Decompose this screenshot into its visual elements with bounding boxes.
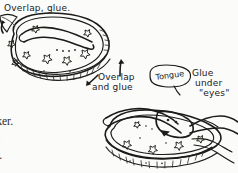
annotation-tongue-label: Tongue bbox=[154, 69, 185, 82]
body-text-block: ch eaker. the ow. bbox=[0, 96, 56, 164]
body-inner-contour bbox=[15, 17, 103, 73]
tongue-bubble-pointer bbox=[174, 86, 180, 95]
coil-tab-strip-bottom bbox=[106, 147, 217, 167]
body-text-line-3: the bbox=[0, 130, 56, 147]
figure-snake-head-bottom bbox=[103, 109, 238, 169]
seam-dots bbox=[56, 49, 76, 52]
neck-ribbon-edge bbox=[103, 118, 108, 126]
illustration-page: Overlap, glue. Overlap and glue Tongue G… bbox=[0, 0, 238, 173]
annotation-middle-line2: and glue bbox=[92, 82, 133, 92]
body-text-line-1: ch bbox=[0, 96, 56, 113]
annotation-glue-line3: "eyes" bbox=[199, 88, 230, 98]
body-text-line-2: eaker. bbox=[0, 113, 56, 130]
inner-wavy-band-tail bbox=[19, 34, 24, 42]
eye-right bbox=[175, 121, 178, 124]
body-text-line-4: ow. bbox=[0, 147, 56, 164]
inner-wavy-band-bottom bbox=[24, 37, 94, 49]
coil-dots bbox=[139, 125, 167, 144]
eye-left bbox=[167, 119, 170, 122]
annotation-glue-line1: Glue bbox=[192, 68, 214, 78]
figure-snake-body-top bbox=[0, 13, 110, 81]
star-decorations-bottom bbox=[122, 122, 204, 155]
neck-ribbon-bottom bbox=[108, 117, 181, 133]
annotation-glue-line2: under bbox=[195, 78, 222, 88]
annotation-middle-line1: Overlap bbox=[98, 72, 135, 82]
annotation-top-label: Overlap, glue. bbox=[4, 3, 70, 13]
